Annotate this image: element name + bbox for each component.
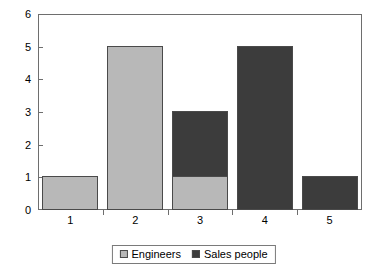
bar-group	[42, 14, 98, 210]
x-tick-label: 5	[297, 214, 362, 226]
bar-segment-sales-people	[302, 176, 358, 210]
x-tick-mark	[297, 210, 298, 215]
x-axis: 12345	[38, 214, 362, 230]
x-tick-mark	[103, 210, 104, 215]
bar-group	[302, 14, 358, 210]
x-tick-label: 2	[103, 214, 168, 226]
y-tick-label: 1	[0, 172, 31, 183]
bar-group	[172, 14, 228, 210]
legend-swatch-icon	[119, 250, 127, 258]
legend-entry: Engineers	[119, 248, 181, 260]
y-tick-label: 5	[0, 41, 31, 52]
bar-segment-engineers	[172, 176, 228, 210]
bar-group	[107, 14, 163, 210]
bar-segment-engineers	[42, 176, 98, 210]
chart-legend: EngineersSales people	[111, 245, 275, 264]
legend-swatch-icon	[192, 250, 200, 258]
bar-segment-engineers	[107, 46, 163, 210]
legend-label: Sales people	[204, 248, 268, 260]
legend-label: Engineers	[131, 248, 181, 260]
x-tick-label: 3	[168, 214, 233, 226]
bar-group	[237, 14, 293, 210]
y-tick-label: 6	[0, 9, 31, 20]
bar-chart: 0123456 12345 EngineersSales people	[0, 0, 387, 280]
y-tick-label: 0	[0, 205, 31, 216]
legend-entry: Sales people	[192, 248, 268, 260]
y-tick-label: 2	[0, 139, 31, 150]
bar-segment-sales-people	[172, 111, 228, 177]
y-axis: 0123456	[0, 14, 31, 210]
x-tick-label: 1	[38, 214, 103, 226]
y-tick-label: 3	[0, 107, 31, 118]
bars-layer	[38, 14, 362, 210]
x-tick-mark	[168, 210, 169, 215]
x-tick-mark	[232, 210, 233, 215]
x-tick-label: 4	[232, 214, 297, 226]
bar-segment-sales-people	[237, 46, 293, 210]
y-tick-label: 4	[0, 74, 31, 85]
